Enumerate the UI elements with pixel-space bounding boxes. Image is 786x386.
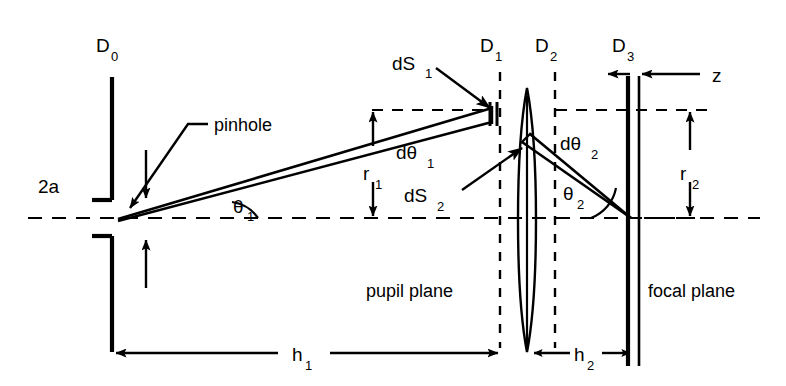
label-z: z [712,65,722,86]
label-d0-subscript: 0 [111,49,118,64]
label-d2-text: D [535,35,549,56]
label-theta2-subscript: 2 [577,197,584,212]
label-d3-subscript: 3 [627,49,634,64]
label-dtheta1-text: dθ [396,142,417,163]
dimension-z: z [608,65,722,86]
label-focal-plane: focal plane [648,281,735,301]
element-ds2: dS 2 [404,148,522,214]
label-dtheta2-text: dθ [560,133,581,154]
label-d1-text: D [480,35,494,56]
label-theta1: θ [233,196,244,217]
dimension-r1: r 1 [363,112,382,216]
label-r1: r [363,163,370,184]
d3-focal-plane-slab [628,76,639,366]
label-ds2: dS [404,185,427,206]
diagram-canvas: D 0 2a pinhole θ 1 dS 1 dθ 1 [0,0,786,386]
label-d2: D 2 [535,35,557,64]
label-d1: D 1 [480,35,502,64]
label-r2: r [680,163,687,184]
label-theta2: θ [563,183,574,204]
label-r2-subscript: 2 [692,177,699,192]
angle-theta1: θ 1 [232,196,258,224]
label-dtheta1: dθ 1 [396,142,434,171]
svg-text:pupil plane: pupil plane [366,281,453,301]
d0-pinhole-screen [92,77,112,352]
label-ds1-subscript: 1 [425,66,432,81]
label-dtheta2-subscript: 2 [591,147,598,162]
label-r1-subscript: 1 [375,177,382,192]
label-h1: h [292,344,303,365]
label-d0-text: D [96,35,110,56]
label-d3-text: D [612,35,626,56]
label-d1-subscript: 1 [495,49,502,64]
svg-text:focal plane: focal plane [648,281,735,301]
element-ds1 [490,102,497,126]
label-h2: h [574,344,585,365]
label-dtheta1-subscript: 1 [427,156,434,171]
label-2a: 2a [38,176,60,197]
label-pupil-plane: pupil plane [366,281,453,301]
dimension-r2: r 2 [680,112,699,216]
ray-bundle-pinhole-to-pupil [118,106,492,221]
label-h1-subscript: 1 [305,358,312,373]
label-ds2-subscript: 2 [437,199,444,214]
optics-diagram-figure: D 0 2a pinhole θ 1 dS 1 dθ 1 [0,0,786,386]
label-d0: D 0 [96,35,118,64]
ds1-callout: dS 1 [392,53,490,108]
label-theta1-subscript: 1 [247,209,254,224]
label-pinhole: pinhole [214,115,272,135]
label-d3: D 3 [612,35,634,64]
dimension-h2: h 2 [534,344,630,373]
label-h2-subscript: 2 [587,358,594,373]
lens [518,88,536,352]
label-ds1: dS [392,53,415,74]
label-dtheta2: dθ 2 [560,133,598,162]
label-d2-subscript: 2 [550,49,557,64]
dimension-h1: h 1 [116,344,498,373]
